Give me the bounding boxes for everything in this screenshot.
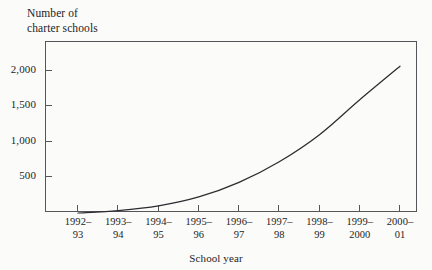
- charter-schools-line-chart: Number of charter schools 5001,0001,5002…: [0, 0, 432, 270]
- plot-area: 5001,0001,5002,000 1992– 931993– 941994–…: [45, 41, 417, 212]
- x-tick-label: 2000– 01: [371, 215, 429, 241]
- series-line-path: [78, 66, 400, 213]
- y-tick-label: 2,000: [0, 63, 36, 75]
- series-charter-schools: [46, 42, 418, 213]
- y-tick-label: 500: [0, 169, 36, 181]
- y-axis-title: Number of charter schools: [27, 6, 98, 35]
- x-axis-title: School year: [0, 252, 432, 264]
- y-tick-label: 1,000: [0, 134, 36, 146]
- y-tick-label: 1,500: [0, 98, 36, 110]
